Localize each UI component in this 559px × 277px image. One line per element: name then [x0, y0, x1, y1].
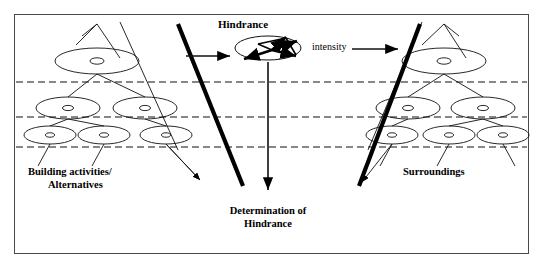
determination-label-line2: Hindrance: [208, 218, 328, 230]
determination-label-line1: Determination of: [208, 205, 328, 217]
diagram-canvas: Hindrance intensity Building activities/…: [0, 0, 559, 277]
hindrance-label: Hindrance: [218, 18, 268, 31]
intensity-label: intensity: [312, 41, 346, 53]
surroundings-label: Surroundings: [403, 166, 465, 178]
building-activities-label-line2: Alternatives: [48, 179, 103, 191]
building-activities-label-line1: Building activities/: [28, 166, 112, 178]
